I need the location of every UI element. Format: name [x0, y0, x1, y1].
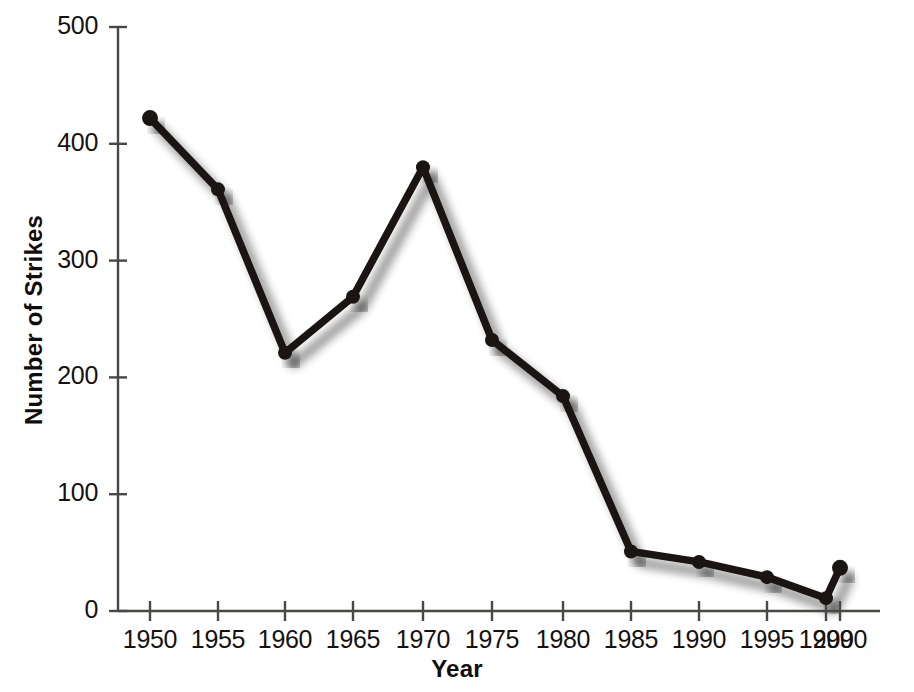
y-tick-label: 100: [0, 478, 98, 507]
data-point-markers: [142, 110, 848, 605]
y-tick-label: 0: [0, 595, 98, 624]
data-point-marker: [416, 160, 430, 174]
data-point-marker: [692, 555, 706, 569]
y-tick-label: 400: [0, 128, 98, 157]
data-point-marker: [142, 110, 158, 126]
x-tick-label: 2000: [780, 625, 900, 654]
data-point-marker: [556, 389, 570, 403]
y-tick-label: 200: [0, 361, 98, 390]
chart-canvas: Number of Strikes: [0, 0, 914, 692]
data-series-line: [150, 118, 840, 598]
data-point-marker: [485, 333, 499, 347]
data-point-marker: [760, 570, 774, 584]
line-drop-shadow: [143, 111, 848, 606]
data-point-marker: [832, 560, 848, 576]
data-point-marker: [211, 182, 225, 196]
x-axis-title: Year: [0, 655, 914, 683]
series-line-path: [150, 118, 840, 598]
line-chart: Number of Strikes 0100200300400500 19501…: [0, 0, 914, 692]
data-point-marker: [819, 591, 833, 605]
y-tick-label: 500: [0, 11, 98, 40]
data-point-marker: [278, 346, 292, 360]
data-point-marker: [346, 290, 360, 304]
data-point-marker: [624, 544, 638, 558]
y-tick-label: 300: [0, 245, 98, 274]
chart-axes: [109, 26, 880, 621]
series-shadow-path: [150, 118, 840, 598]
